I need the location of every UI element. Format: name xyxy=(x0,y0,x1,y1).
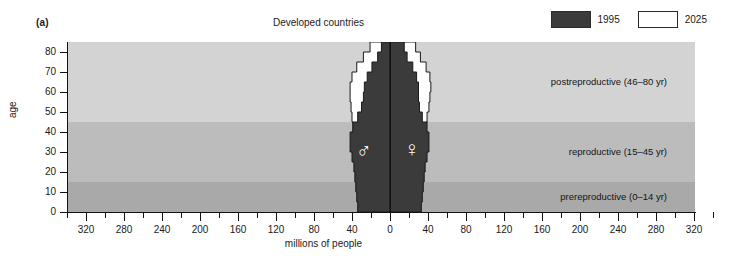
x-tick--40 xyxy=(352,212,353,221)
x-tick--260 xyxy=(143,212,144,218)
x-tick-label-0: 0 xyxy=(370,224,410,235)
y-tick-label-20: 20 xyxy=(26,166,56,177)
x-tick-label--40: 40 xyxy=(332,224,372,235)
y-axis-line xyxy=(67,42,68,212)
x-tick--200 xyxy=(200,212,201,221)
x-axis-title: millions of people xyxy=(0,238,690,249)
y-tick-label-60: 60 xyxy=(26,86,56,97)
x-tick--280 xyxy=(124,212,125,221)
x-tick-100 xyxy=(485,212,486,218)
x-tick-label-80: 80 xyxy=(446,224,486,235)
x-tick-80 xyxy=(466,212,467,221)
y-tick-20 xyxy=(60,172,67,173)
x-tick-label-120: 120 xyxy=(484,224,524,235)
x-tick-label--80: 80 xyxy=(294,224,334,235)
x-tick-0 xyxy=(390,212,391,221)
x-tick--180 xyxy=(219,212,220,218)
x-tick-220 xyxy=(599,212,600,218)
y-tick-label-0: 0 xyxy=(26,206,56,217)
x-tick-label--320: 320 xyxy=(66,224,106,235)
y-tick-label-30: 30 xyxy=(26,146,56,157)
x-tick--220 xyxy=(181,212,182,218)
female-symbol-icon: ♀ xyxy=(404,138,420,159)
x-tick--240 xyxy=(162,212,163,221)
x-tick--140 xyxy=(257,212,258,218)
y-tick-50 xyxy=(60,112,67,113)
population-pyramid-figure: (a) Developed countries 1995 2025 postre… xyxy=(0,0,733,259)
x-tick--120 xyxy=(276,212,277,221)
x-tick-300 xyxy=(675,212,676,218)
x-tick--80 xyxy=(314,212,315,221)
y-axis-title: age xyxy=(7,101,18,118)
y-tick-30 xyxy=(60,152,67,153)
x-tick-180 xyxy=(561,212,562,218)
age-band-label-0: postreproductive (46–80 yr) xyxy=(551,76,667,87)
y-tick-80 xyxy=(60,52,67,53)
x-tick-label-200: 200 xyxy=(560,224,600,235)
x-tick--60 xyxy=(333,212,334,218)
legend-item-1995: 1995 xyxy=(551,11,620,28)
x-tick-label--160: 160 xyxy=(218,224,258,235)
x-tick-40 xyxy=(428,212,429,221)
y-tick-10 xyxy=(60,192,67,193)
legend-swatch-2025 xyxy=(638,11,678,28)
male-symbol-icon: ♂ xyxy=(356,140,372,161)
legend-label-1995: 1995 xyxy=(598,14,620,25)
x-tick-label--280: 280 xyxy=(104,224,144,235)
x-tick-160 xyxy=(542,212,543,221)
legend-swatch-1995 xyxy=(551,11,591,28)
x-tick-280 xyxy=(656,212,657,221)
y-tick-40 xyxy=(60,132,67,133)
y-tick-label-70: 70 xyxy=(26,66,56,77)
age-band-label-1: reproductive (15–45 yr) xyxy=(569,146,667,157)
legend: 1995 2025 xyxy=(551,11,708,28)
y-tick-70 xyxy=(60,72,67,73)
x-tick-label-160: 160 xyxy=(522,224,562,235)
y-tick-label-50: 50 xyxy=(26,106,56,117)
x-tick-320 xyxy=(694,212,695,221)
x-tick-20 xyxy=(409,212,410,218)
x-tick--100 xyxy=(295,212,296,218)
plot-area: postreproductive (46–80 yr)reproductive … xyxy=(68,42,695,212)
x-tick-120 xyxy=(504,212,505,221)
x-tick-label-40: 40 xyxy=(408,224,448,235)
y-tick-label-40: 40 xyxy=(26,126,56,137)
x-tick-label-280: 280 xyxy=(636,224,676,235)
x-tick--340 xyxy=(67,212,68,218)
center-axis-line xyxy=(390,42,391,212)
x-tick--20 xyxy=(371,212,372,218)
x-tick-label-240: 240 xyxy=(598,224,638,235)
x-tick-240 xyxy=(618,212,619,221)
legend-item-2025: 2025 xyxy=(638,11,707,28)
x-tick-label--200: 200 xyxy=(180,224,220,235)
pyramid-shapes xyxy=(68,42,695,212)
age-band-label-2: prereproductive (0–14 yr) xyxy=(560,191,667,202)
x-tick-label--120: 120 xyxy=(256,224,296,235)
y-tick-label-80: 80 xyxy=(26,46,56,57)
x-tick--300 xyxy=(105,212,106,218)
x-tick--160 xyxy=(238,212,239,221)
x-tick--320 xyxy=(86,212,87,221)
x-tick-60 xyxy=(447,212,448,218)
y-tick-label-10: 10 xyxy=(26,186,56,197)
y-tick-0 xyxy=(60,212,67,213)
x-tick-200 xyxy=(580,212,581,221)
x-tick-label-320: 320 xyxy=(674,224,714,235)
x-tick-340 xyxy=(713,212,714,218)
legend-label-2025: 2025 xyxy=(685,14,707,25)
x-tick-label--240: 240 xyxy=(142,224,182,235)
x-tick-260 xyxy=(637,212,638,218)
x-tick-140 xyxy=(523,212,524,218)
y-tick-60 xyxy=(60,92,67,93)
